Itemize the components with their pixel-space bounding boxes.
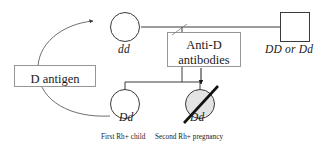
- child2-genotype-label: Dd: [190, 112, 204, 124]
- child2-caption: Second Rh+ pregnancy: [155, 134, 223, 141]
- anti-d-antibodies-label: Anti-D antibodies: [170, 38, 238, 68]
- pedigree-figure: dd DD or Dd Dd Dd D antigen Anti-D antib…: [0, 0, 326, 151]
- mother-symbol: [111, 13, 140, 42]
- anti-d-antibodies-line2: antibodies: [170, 53, 238, 68]
- anti-d-antibodies-line1: Anti-D: [170, 38, 238, 53]
- mother-genotype-label: dd: [118, 44, 130, 56]
- child1-caption: First Rh+ child: [101, 134, 145, 141]
- father-genotype-label: DD or Dd: [265, 44, 313, 56]
- father-symbol: [281, 13, 310, 42]
- child1-genotype-label: Dd: [119, 112, 133, 124]
- d-antigen-label: D antigen: [19, 72, 91, 87]
